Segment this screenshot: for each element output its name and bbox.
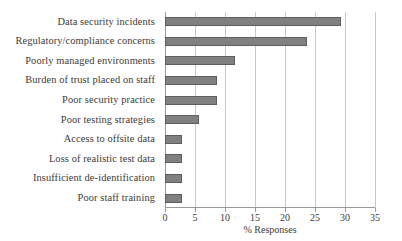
- bar-row: [165, 71, 375, 91]
- bar: [165, 174, 182, 183]
- bar-row: [165, 12, 375, 32]
- gridline: [375, 12, 376, 208]
- bar: [165, 96, 217, 105]
- category-axis-labels: Data security incidents Regulatory/compl…: [0, 12, 160, 208]
- bar-row: [165, 110, 375, 130]
- bar-row: [165, 188, 375, 208]
- bar: [165, 37, 307, 46]
- x-axis-title: % Responses: [165, 224, 375, 235]
- bar-row: [165, 149, 375, 169]
- tick-label: 20: [280, 212, 290, 223]
- plot-area: [165, 12, 375, 208]
- tick-label: 10: [220, 212, 230, 223]
- bar: [165, 115, 199, 124]
- category-label: Poor staff training: [0, 188, 160, 208]
- bar-row: [165, 32, 375, 52]
- bar: [165, 76, 217, 85]
- category-label: Insufficient de-identification: [0, 169, 160, 189]
- bar-chart: Data security incidents Regulatory/compl…: [0, 0, 402, 241]
- bar: [165, 154, 182, 163]
- tick-label: 15: [250, 212, 260, 223]
- category-label: Poor security practice: [0, 90, 160, 110]
- bar: [165, 135, 182, 144]
- bar-row: [165, 130, 375, 150]
- category-label: Burden of trust placed on staff: [0, 71, 160, 91]
- tick-label: 25: [310, 212, 320, 223]
- bar-row: [165, 90, 375, 110]
- category-label: Poor testing strategies: [0, 110, 160, 130]
- category-label: Access to offsite data: [0, 130, 160, 150]
- bar-row: [165, 169, 375, 189]
- category-label: Poorly managed environments: [0, 51, 160, 71]
- bar: [165, 56, 235, 65]
- category-label: Loss of realistic test data: [0, 149, 160, 169]
- bar-row: [165, 51, 375, 71]
- value-axis-ticks: 05101520253035: [165, 208, 375, 214]
- category-label: Data security incidents: [0, 12, 160, 32]
- bar: [165, 17, 341, 26]
- tick-label: 0: [163, 212, 168, 223]
- tick-label: 5: [193, 212, 198, 223]
- bar-series: [165, 12, 375, 208]
- category-label: Regulatory/compliance concerns: [0, 32, 160, 52]
- bar: [165, 194, 182, 203]
- tick-label: 35: [370, 212, 380, 223]
- tick-label: 30: [340, 212, 350, 223]
